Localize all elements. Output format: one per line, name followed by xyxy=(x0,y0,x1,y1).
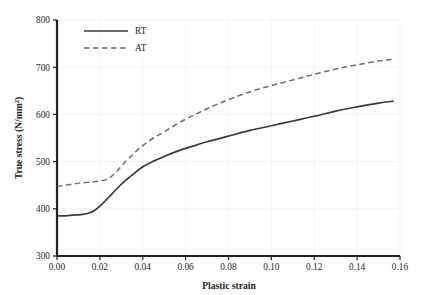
series-line-at xyxy=(57,59,394,186)
y-tick-label: 300 xyxy=(36,251,50,261)
x-axis-title: Plastic strain xyxy=(202,280,256,291)
y-tick-label: 600 xyxy=(36,110,50,120)
x-tick-labels: 0.000.020.040.060.080.100.120.140.16 xyxy=(49,262,409,272)
axis-ticks xyxy=(53,20,400,260)
chart-legend: RTAT xyxy=(84,26,147,53)
series-lines xyxy=(57,59,394,216)
figure-container: 0.000.020.040.060.080.100.120.140.16 300… xyxy=(0,0,421,295)
y-tick-label: 800 xyxy=(36,15,50,25)
y-tick-label: 700 xyxy=(36,63,50,73)
x-tick-label: 0.08 xyxy=(220,262,237,272)
legend-label-rt: RT xyxy=(135,26,147,36)
x-tick-label: 0.16 xyxy=(392,262,409,272)
x-tick-label: 0.14 xyxy=(349,262,366,272)
series-line-rt xyxy=(57,101,394,216)
x-tick-label: 0.02 xyxy=(92,262,109,272)
x-tick-label: 0.00 xyxy=(49,262,66,272)
gridlines xyxy=(57,20,400,256)
x-tick-label: 0.12 xyxy=(306,262,323,272)
y-tick-label: 400 xyxy=(36,204,50,214)
y-axis-title: True stress (N/mm2) xyxy=(13,97,25,179)
x-tick-label: 0.04 xyxy=(135,262,152,272)
chart-svg: 0.000.020.040.060.080.100.120.140.16 300… xyxy=(0,0,421,295)
y-tick-labels: 300400500600700800 xyxy=(36,15,50,261)
x-tick-label: 0.10 xyxy=(263,262,280,272)
y-tick-label: 500 xyxy=(36,157,50,167)
legend-label-at: AT xyxy=(135,43,147,53)
x-tick-label: 0.06 xyxy=(177,262,194,272)
